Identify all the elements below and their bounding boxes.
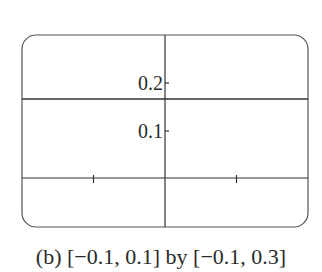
y-tick-label: 0.1	[138, 120, 163, 142]
y-tick-label: 0.2	[138, 72, 163, 94]
graph-window: 0.10.2	[0, 0, 322, 240]
y-ticks: 0.10.2	[138, 72, 169, 142]
chart-caption: (b) [−0.1, 0.1] by [−0.1, 0.3]	[0, 244, 322, 270]
